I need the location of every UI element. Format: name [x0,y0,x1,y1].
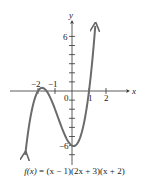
y-tick-label-6: 6 [63,32,68,42]
x-tick-label-neg2: −2 [31,79,41,89]
x-tick-label-2: 2 [104,93,109,103]
origin-label: 0 [64,93,69,103]
function-curve [25,26,95,155]
caption-equation: = (x − 1)(2x + 3)(x + 2) [37,166,125,176]
x-axis-label: x [131,86,136,96]
caption-fx: f(x) [24,166,37,176]
function-graph: x y −2 −1 0 1 2 6 −6 [0,0,149,183]
y-axis-label: y [68,10,73,20]
function-caption: f(x) = (x − 1)(2x + 3)(x + 2) [0,166,149,176]
y-tick-label-neg6: −6 [59,141,69,151]
x-tick-label-neg1: −1 [48,79,58,89]
